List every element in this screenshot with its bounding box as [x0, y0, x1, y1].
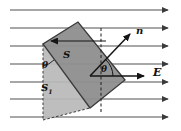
projected-area-subscript: 1 — [48, 88, 52, 95]
angle-label-left: θ — [42, 61, 48, 70]
surface-area-label: S — [63, 50, 70, 60]
projected-area-label: S1 — [41, 83, 53, 95]
angle-label-center: θ — [101, 65, 107, 74]
normal-vector-label: n — [136, 26, 143, 36]
physics-flux-diagram: n E S S1 θ θ — [0, 0, 181, 131]
field-vector-label: E — [153, 67, 161, 78]
